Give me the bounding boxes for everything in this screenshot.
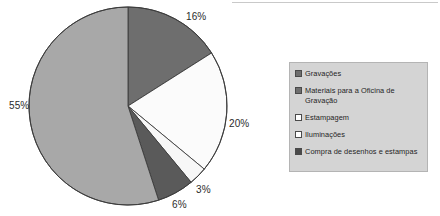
- legend-item-label: Estampagem: [305, 113, 349, 123]
- legend-item-label: Materiais para a Oficina de Gravação: [305, 86, 422, 106]
- legend-swatch-icon: [295, 70, 302, 77]
- pie-chart: [28, 6, 228, 206]
- top-divider-rule: [232, 2, 438, 3]
- legend-item-label: Gravações: [305, 69, 341, 79]
- pie-label-16: 16%: [186, 11, 206, 22]
- legend-swatch-icon: [295, 114, 302, 121]
- legend-item-estampagem[interactable]: Estampagem: [295, 113, 422, 123]
- legend-item-label: Compra de desenhos e estampas: [305, 147, 417, 157]
- legend-item-materiais-oficina-gravacao[interactable]: Materiais para a Oficina de Gravação: [295, 86, 422, 106]
- legend-swatch-icon: [295, 148, 302, 155]
- chart-legend: Gravações Materiais para a Oficina de Gr…: [289, 62, 428, 172]
- legend-item-iluminacoes[interactable]: Iluminações: [295, 130, 422, 140]
- pie-chart-svg: [28, 6, 228, 206]
- legend-swatch-icon: [295, 87, 302, 94]
- legend-item-gravacoes[interactable]: Gravações: [295, 69, 422, 79]
- pie-label-3: 3%: [196, 184, 211, 195]
- legend-item-label: Iluminações: [305, 130, 345, 140]
- pie-label-6: 6%: [172, 199, 187, 210]
- legend-swatch-icon: [295, 131, 302, 138]
- pie-label-20: 20%: [229, 118, 249, 129]
- pie-label-55: 55%: [9, 100, 29, 111]
- legend-item-compra-desenhos-estampas[interactable]: Compra de desenhos e estampas: [295, 147, 422, 157]
